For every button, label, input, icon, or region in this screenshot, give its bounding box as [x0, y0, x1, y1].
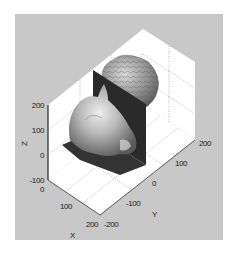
- x-tick-0: 0: [40, 185, 45, 194]
- y-tick-neg200: -200: [104, 220, 119, 229]
- x-tick-200: 200: [86, 220, 99, 229]
- y-axis-label: Y: [152, 210, 158, 219]
- x-tick-100: 100: [60, 202, 73, 211]
- z-tick-0: 0: [40, 151, 45, 160]
- y-tick-200: 200: [199, 139, 212, 148]
- plot-3d: 200 100 0 -100 Z 0 100 200 X -200 -100 0…: [0, 0, 235, 256]
- z-axis: 200 100 0 -100 Z: [20, 101, 48, 185]
- z-axis-label: Z: [20, 141, 29, 146]
- z-tick-200: 200: [32, 101, 45, 110]
- z-tick-100: 100: [32, 126, 45, 135]
- z-tick-neg100: -100: [30, 176, 45, 185]
- x-axis-label: X: [70, 231, 76, 240]
- y-tick-100: 100: [175, 159, 188, 168]
- y-tick-0: 0: [152, 179, 157, 188]
- y-tick-neg100: -100: [126, 199, 141, 208]
